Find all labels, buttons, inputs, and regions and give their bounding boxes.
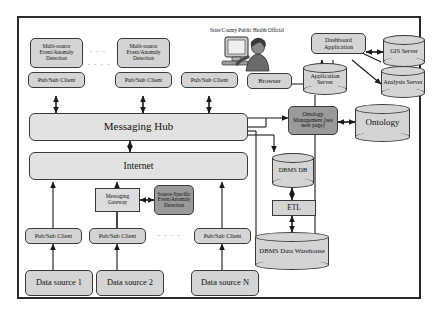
node-ontology-management[interactable]: Ontology Management (see next page): [288, 106, 338, 135]
node-pubsub-client-bottom-3[interactable]: Pub/Sub Client: [194, 228, 251, 244]
node-pubsub-client-top-3[interactable]: Pub/Sub Client: [181, 72, 238, 88]
node-browser[interactable]: Browser: [247, 73, 292, 89]
node-data-source-2[interactable]: Data source 2: [96, 270, 164, 296]
ellipsis-bottom: · · · ·: [158, 233, 181, 239]
node-data-source-1[interactable]: Data source 1: [25, 270, 93, 296]
node-pubsub-client-top-2[interactable]: Pub/Sub Client: [115, 72, 172, 88]
node-messaging-gateway[interactable]: Messaging Gateway: [95, 188, 140, 212]
node-internet[interactable]: Internet: [29, 152, 248, 180]
ellipsis-upper: · · ·: [90, 49, 107, 55]
node-messaging-hub[interactable]: Messaging Hub: [29, 113, 248, 141]
node-dashboard-application[interactable]: Dashboard Application: [311, 33, 366, 54]
node-multisource-event-detection-2[interactable]: Multi-source Event/Anomaly Detection: [117, 38, 170, 68]
ellipsis-lower: · · · ·: [88, 62, 111, 68]
node-ontology[interactable]: Ontology: [355, 104, 410, 142]
node-source-specific-event-detection[interactable]: Source-Specific Event/Anomaly Detection: [154, 185, 194, 215]
architecture-diagram: State/County Public Health Official Mult…: [0, 0, 436, 317]
node-pubsub-client-bottom-1[interactable]: Pub/Sub Client: [25, 228, 82, 244]
node-data-source-n[interactable]: Data source N: [191, 270, 259, 296]
node-pubsub-client-bottom-2[interactable]: Pub/Sub Client: [89, 228, 146, 244]
node-analysis-server[interactable]: Analysis Server: [381, 66, 425, 98]
node-dbms-data-warehouse[interactable]: DBMS Data Warehouse: [255, 232, 329, 270]
node-etl[interactable]: ETL: [272, 200, 316, 216]
node-pubsub-client-top-1[interactable]: Pub/Sub Client: [28, 72, 85, 88]
node-gis-server[interactable]: GIS Server: [383, 35, 425, 67]
node-multisource-event-detection-1[interactable]: Multi-source Event/Anomaly Detection: [30, 38, 83, 68]
node-dbms-db[interactable]: DBMS DB: [272, 153, 314, 188]
public-health-official-icon: [216, 33, 278, 77]
node-application-server[interactable]: Application Server: [303, 63, 347, 95]
